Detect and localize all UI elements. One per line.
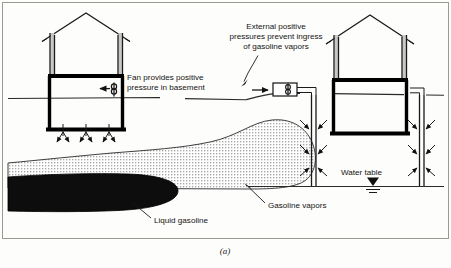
fan-icon-basement — [111, 83, 116, 97]
liquid-gasoline-label: Liquid gasoline — [154, 216, 208, 225]
gasoline-vapors-label: Gasoline vapors — [268, 201, 327, 210]
sub-slab-vents-left-house — [57, 124, 115, 142]
injection-well-right-arrows — [408, 120, 435, 176]
diagram-canvas: Fan provides positive pressure in baseme… — [0, 0, 451, 268]
water-table-label: Water table — [341, 168, 383, 177]
fan-label-line2: pressure in basement — [127, 83, 206, 92]
wall-shade-left-right-house — [335, 35, 339, 78]
wall-shade-right-right-house — [403, 35, 407, 78]
roof-eaves-left-house — [42, 39, 130, 42]
injection-well-right — [408, 95, 435, 186]
figure-caption: (a) — [220, 246, 231, 256]
ground-surface-line-right — [332, 94, 404, 95]
external-label-line1: External positive — [246, 22, 306, 31]
ground-surface-line-mid — [185, 99, 246, 100]
figure-container: Fan provides positive pressure in baseme… — [0, 0, 451, 268]
house-cross-section-left — [42, 13, 130, 142]
wall-shade-left — [51, 33, 55, 74]
water-table-symbol — [366, 178, 380, 193]
blower-housing — [273, 83, 297, 96]
blower-unit-exterior — [252, 83, 297, 96]
roof-line-left-house — [42, 13, 130, 42]
roof-eaves-right-house — [326, 41, 414, 44]
ground-surface-line-left — [8, 98, 160, 99]
leader-external-pressures — [244, 56, 258, 82]
liquid-gasoline-pool — [8, 174, 178, 212]
house-cross-section-right — [326, 15, 414, 134]
water-table-hatch — [366, 190, 380, 193]
fan-label-line1: Fan provides positive — [127, 73, 204, 82]
external-label-line3: of gasoline vapors — [243, 42, 309, 51]
wall-shade-right — [119, 33, 123, 74]
water-table-triangle — [367, 178, 379, 187]
roof-line-right-house — [326, 15, 414, 44]
external-label-line2: pressures prevent ingress — [229, 32, 322, 41]
